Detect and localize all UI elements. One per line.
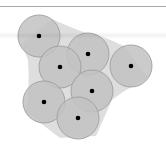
disk-diagram bbox=[0, 0, 166, 150]
center-point-p4 bbox=[129, 64, 134, 69]
center-point-p5 bbox=[90, 89, 95, 94]
center-point-p6 bbox=[42, 100, 47, 105]
center-point-p1 bbox=[37, 34, 42, 39]
center-point-p3 bbox=[58, 65, 63, 70]
center-point-p2 bbox=[86, 52, 91, 57]
center-point-p7 bbox=[76, 116, 81, 121]
